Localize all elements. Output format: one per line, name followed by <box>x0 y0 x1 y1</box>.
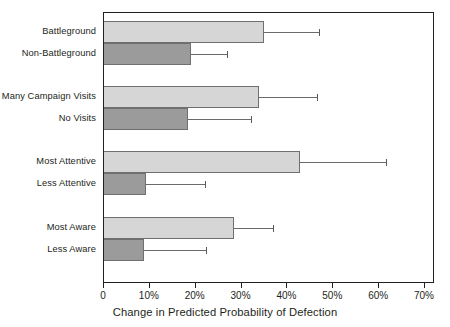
error-bar-line <box>300 162 386 163</box>
category-label-non-battleground: Non-Battleground <box>22 48 96 58</box>
error-bar-cap <box>386 159 387 166</box>
x-tick <box>332 283 333 288</box>
error-bar-line <box>259 97 317 98</box>
category-label-less-aware: Less Aware <box>47 244 96 254</box>
category-label-column: BattlegroundNon-BattlegroundMany Campaig… <box>0 0 100 327</box>
x-tick <box>149 283 150 288</box>
x-tick-label: 50% <box>322 290 342 302</box>
bar-most-aware <box>104 217 234 239</box>
error-bar-cap <box>273 225 274 232</box>
error-bar-cap <box>317 94 318 101</box>
error-bar-cap <box>319 29 320 36</box>
error-bar-line <box>191 54 227 55</box>
x-axis-title: Change in Predicted Probability of Defec… <box>0 306 450 318</box>
category-label-most-aware: Most Aware <box>47 222 96 232</box>
bar-chart-figure: BattlegroundNon-BattlegroundMany Campaig… <box>0 0 450 327</box>
x-tick <box>378 283 379 288</box>
error-bar-line <box>234 228 273 229</box>
x-tick-label: 20% <box>185 290 205 302</box>
bar-battleground <box>104 21 264 43</box>
bar-less-attentive <box>104 173 146 195</box>
bar-most-attentive <box>104 151 300 173</box>
bar-less-aware <box>104 239 144 261</box>
x-tick <box>424 283 425 288</box>
x-tick <box>286 283 287 288</box>
x-tick-label: 30% <box>231 290 251 302</box>
error-bar-cap <box>251 116 252 123</box>
x-tick <box>241 283 242 288</box>
x-tick-label: 70% <box>414 290 434 302</box>
x-tick <box>195 283 196 288</box>
bar-many-campaign-visits <box>104 86 259 108</box>
error-bar-cap <box>227 51 228 58</box>
category-label-many-campaign-visits: Many Campaign Visits <box>2 91 96 101</box>
bar-no-visits <box>104 108 188 130</box>
x-tick <box>103 283 104 288</box>
x-tick-label: 0 <box>100 290 106 302</box>
x-tick-label: 60% <box>368 290 388 302</box>
error-bar-line <box>188 119 251 120</box>
error-bar-line <box>146 184 205 185</box>
category-label-most-attentive: Most Attentive <box>36 156 96 166</box>
category-label-less-attentive: Less Attentive <box>37 178 96 188</box>
category-label-no-visits: No Visits <box>59 113 96 123</box>
error-bar-line <box>264 32 319 33</box>
x-tick-label: 40% <box>276 290 296 302</box>
bar-non-battleground <box>104 43 191 65</box>
error-bar-cap <box>206 247 207 254</box>
error-bar-cap <box>205 181 206 188</box>
x-tick-label: 10% <box>139 290 159 302</box>
error-bar-line <box>144 250 206 251</box>
category-label-battleground: Battleground <box>42 26 96 36</box>
plot-area <box>103 12 434 283</box>
